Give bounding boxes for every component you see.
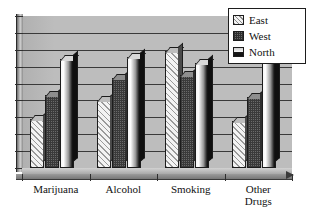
bar-side-face	[73, 51, 78, 162]
legend-label-east: East	[249, 15, 268, 26]
bar-west-3[interactable]	[180, 75, 194, 168]
x-axis-tick	[90, 174, 91, 181]
x-axis-label-4: Other Drugs	[218, 183, 298, 207]
legend-swatch-west-icon	[233, 31, 244, 41]
y-axis-tick	[15, 33, 23, 34]
legend-item-east[interactable]: East	[233, 12, 301, 28]
y-axis-tick	[15, 50, 23, 51]
bar-north-4[interactable]	[262, 62, 276, 168]
y-axis-tick	[15, 67, 23, 68]
x-axis-tick	[157, 174, 158, 181]
y-axis-tick	[15, 84, 23, 85]
x-axis-arrow-icon	[286, 171, 294, 179]
legend-swatch-north-icon	[233, 47, 244, 57]
bar-west-2[interactable]	[112, 78, 126, 168]
bar-north-1[interactable]	[60, 59, 74, 168]
bar-chart: MarijuanaAlcoholSmokingOther Drugs East …	[0, 0, 313, 212]
y-axis-tick	[15, 16, 23, 17]
bar-east-1[interactable]	[30, 119, 44, 168]
bar-west-4[interactable]	[247, 97, 261, 168]
x-axis-tick	[22, 174, 23, 181]
bar-side-face	[208, 55, 213, 162]
x-axis	[16, 174, 292, 180]
bar-north-3[interactable]	[195, 63, 209, 168]
x-axis-tick	[225, 174, 226, 181]
legend: East West North	[228, 8, 306, 64]
bar-east-3[interactable]	[165, 51, 179, 168]
legend-label-north: North	[249, 47, 275, 58]
legend-item-north[interactable]: North	[233, 44, 301, 60]
legend-item-west[interactable]: West	[233, 28, 301, 44]
y-axis-tick	[15, 151, 23, 152]
legend-label-west: West	[249, 31, 271, 42]
bar-side-face	[275, 54, 280, 162]
bar-west-1[interactable]	[45, 95, 59, 168]
y-axis-tick	[15, 117, 23, 118]
legend-swatch-east-icon	[233, 15, 244, 25]
y-axis-tick	[15, 100, 23, 101]
y-axis	[16, 14, 23, 172]
bar-north-2[interactable]	[127, 57, 141, 168]
bar-east-2[interactable]	[97, 100, 111, 168]
bar-side-face	[140, 49, 145, 162]
y-axis-tick	[15, 134, 23, 135]
bar-east-4[interactable]	[232, 121, 246, 168]
